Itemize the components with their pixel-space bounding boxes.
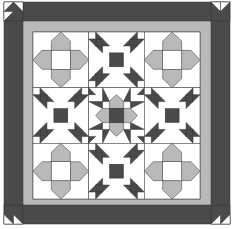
paw-claw-square bbox=[130, 74, 137, 81]
paw-center bbox=[54, 109, 68, 123]
cross-center bbox=[163, 162, 182, 181]
quilt-image bbox=[0, 0, 233, 229]
cross-center bbox=[51, 162, 70, 181]
paw-claw-square bbox=[75, 95, 82, 102]
paw-claw-square bbox=[40, 95, 47, 102]
paw-claw-square bbox=[96, 150, 103, 157]
paw-claw-square bbox=[151, 95, 158, 102]
paw-claw-square bbox=[130, 150, 137, 157]
paw-claw-square bbox=[96, 74, 103, 81]
star-center bbox=[109, 108, 123, 122]
paw-center bbox=[110, 164, 124, 178]
paw-claw-square bbox=[130, 39, 137, 46]
paw-claw-square bbox=[186, 129, 193, 136]
paw-center bbox=[110, 53, 124, 67]
paw-claw-square bbox=[75, 129, 82, 136]
cross-center bbox=[163, 50, 182, 69]
paw-claw-square bbox=[151, 129, 158, 136]
paw-center bbox=[165, 109, 179, 123]
paw-claw-square bbox=[96, 185, 103, 192]
paw-claw-square bbox=[186, 95, 193, 102]
paw-claw-square bbox=[130, 185, 137, 192]
paw-claw-square bbox=[96, 39, 103, 46]
paw-claw-square bbox=[40, 129, 47, 136]
cross-center bbox=[51, 50, 70, 69]
